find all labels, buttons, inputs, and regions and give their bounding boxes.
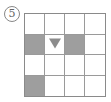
grid-diagram [24, 13, 106, 97]
option-number-label: 5 [4, 6, 20, 22]
grid-cell [45, 55, 65, 76]
grid-cell [45, 14, 65, 35]
grid-cell [25, 55, 45, 76]
shaded-cell [25, 35, 45, 56]
grid-cell [85, 14, 105, 35]
grid-cell [45, 76, 65, 97]
shaded-cell [65, 35, 85, 56]
grid-cell [65, 14, 85, 35]
grid-cell [85, 76, 105, 97]
triangle-down-icon [49, 39, 61, 49]
grid-cell [85, 35, 105, 56]
grid-cell [65, 55, 85, 76]
grid-cell [25, 14, 45, 35]
grid-cell [85, 55, 105, 76]
grid-cell [65, 76, 85, 97]
grid-cell [45, 35, 65, 56]
shaded-cell [25, 76, 45, 97]
